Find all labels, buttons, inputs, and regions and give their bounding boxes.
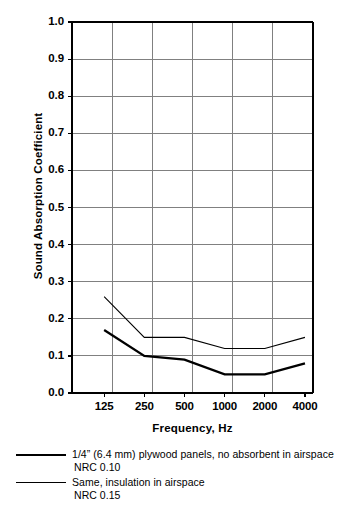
y-tick-label: 0.9 xyxy=(30,52,64,64)
y-tick-label: 0.5 xyxy=(30,201,64,213)
y-tick-label: 0.1 xyxy=(30,349,64,361)
y-tick-label: 0.8 xyxy=(30,89,64,101)
y-tick-label: 1.0 xyxy=(30,15,64,27)
y-tick-label: 0.0 xyxy=(30,386,64,398)
y-tick-label: 0.6 xyxy=(30,163,64,175)
x-axis-title: Frequency, Hz xyxy=(72,422,313,434)
x-tick-label: 1000 xyxy=(203,400,247,412)
series-line-2 xyxy=(104,297,305,349)
x-tick-label: 2000 xyxy=(243,400,287,412)
x-tick-label: 500 xyxy=(162,400,206,412)
legend-line-swatch xyxy=(16,448,66,461)
legend-nrc-value: NRC 0.10 xyxy=(74,461,339,474)
x-tick-label: 125 xyxy=(82,400,126,412)
plot-canvas xyxy=(0,0,339,440)
y-tick-label: 0.7 xyxy=(30,126,64,138)
absorption-coefficient-chart: Sound Absorption Coefficient 1.00.90.80.… xyxy=(0,0,339,440)
chart-legend: 1/4” (6.4 mm) plywood panels, no absorbe… xyxy=(0,448,339,504)
plot-frame xyxy=(68,22,313,397)
x-tick-label: 250 xyxy=(122,400,166,412)
legend-label: 1/4” (6.4 mm) plywood panels, no absorbe… xyxy=(72,448,334,461)
y-tick-label: 0.2 xyxy=(30,312,64,324)
legend-line-swatch xyxy=(16,476,66,489)
series-line-1 xyxy=(104,330,305,375)
legend-nrc-value: NRC 0.15 xyxy=(74,489,339,502)
y-tick-label: 0.4 xyxy=(30,238,64,250)
data-series xyxy=(104,297,305,375)
legend-entry: Same, insulation in airspaceNRC 0.15 xyxy=(0,476,339,502)
gridlines xyxy=(72,22,313,393)
legend-entry: 1/4” (6.4 mm) plywood panels, no absorbe… xyxy=(0,448,339,474)
y-tick-label: 0.3 xyxy=(30,275,64,287)
legend-label: Same, insulation in airspace xyxy=(72,476,205,489)
x-tick-label: 4000 xyxy=(283,400,327,412)
